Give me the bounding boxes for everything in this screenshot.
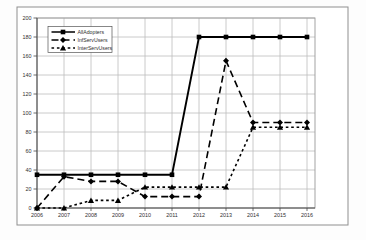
y-tick-label: 80 [26, 129, 32, 135]
x-tick-label: 2010 [139, 212, 151, 218]
legend-label-InterServUsers: InterServUsers [78, 45, 113, 51]
x-tick-label: 2007 [58, 212, 70, 218]
x-tick-label: 2014 [247, 212, 259, 218]
legend: AllAdoptersInfServUsersInterServUsers [48, 27, 112, 53]
y-tick-label: 140 [23, 72, 32, 78]
x-tick-label: 2012 [193, 212, 205, 218]
x-tick-label: 2011 [166, 212, 178, 218]
x-tick-label: 2009 [112, 212, 124, 218]
y-tick-label: 120 [23, 91, 32, 97]
y-tick-label: 40 [26, 167, 32, 173]
x-tick-label: 2006 [31, 212, 43, 218]
y-tick-label: 20 [26, 186, 32, 192]
y-tick-label: 200 [23, 15, 32, 21]
x-tick-label: 2016 [301, 212, 313, 218]
y-tick-label: 100 [23, 110, 32, 116]
adoption-line-chart: 0204060801001201401601802002006200720082… [0, 0, 366, 240]
y-tick-label: 0 [29, 205, 32, 211]
legend-label-InfServUsers: InfServUsers [78, 37, 108, 43]
chart-frame: 0204060801001201401601802002006200720082… [0, 0, 366, 240]
y-tick-label: 180 [23, 34, 32, 40]
y-tick-label: 60 [26, 148, 32, 154]
y-tick-label: 160 [23, 53, 32, 59]
x-tick-label: 2015 [274, 212, 286, 218]
x-tick-label: 2008 [85, 212, 97, 218]
legend-label-AllAdopters: AllAdopters [78, 29, 105, 35]
x-tick-label: 2013 [220, 212, 232, 218]
